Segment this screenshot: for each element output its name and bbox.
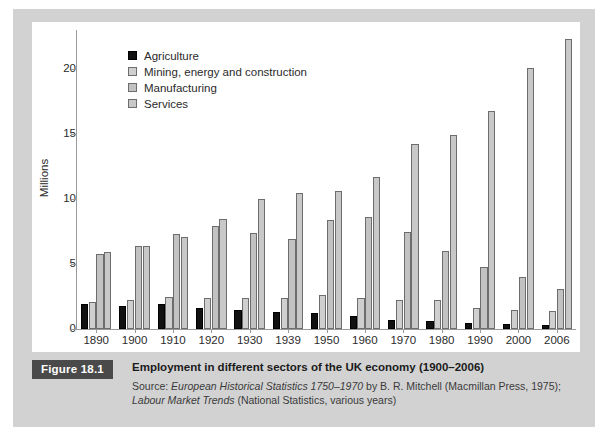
- legend-label-services: Services: [144, 98, 188, 110]
- bar-1990-services: [488, 111, 495, 329]
- bar-1890-agriculture: [81, 304, 88, 329]
- bar-1900-agriculture: [119, 306, 126, 329]
- bar-1900-mining: [127, 300, 134, 329]
- bar-1930-agriculture: [234, 310, 241, 330]
- bar-1960-services: [373, 177, 380, 329]
- x-axis-label-1900: 1900: [115, 334, 155, 346]
- y-tick-mark: [71, 69, 76, 70]
- bar-1960-manufacturing: [365, 217, 372, 329]
- figure-number-badge: Figure 18.1: [32, 360, 113, 379]
- bar-1960-agriculture: [350, 316, 357, 329]
- x-axis-label-1930: 1930: [230, 334, 270, 346]
- bar-1920-services: [219, 219, 226, 330]
- bar-1980-services: [450, 135, 457, 329]
- x-tick-1930: [250, 329, 251, 333]
- x-axis-label-1950: 1950: [307, 334, 347, 346]
- bar-1960-mining: [357, 298, 364, 329]
- caption-text-block: Employment in different sectors of the U…: [132, 360, 572, 407]
- legend-swatch-icon-mining: [128, 67, 137, 76]
- source-prefix: Source:: [132, 380, 171, 392]
- source-title-2: Labour Market Trends: [132, 394, 235, 406]
- bar-1930-services: [258, 199, 265, 329]
- x-tick-1900: [135, 329, 136, 333]
- y-tick-20: 20: [32, 63, 76, 74]
- x-axis-label-1960: 1960: [345, 334, 385, 346]
- chart-plot-area: 05101520 Millions 1890190019101920193019…: [32, 22, 580, 352]
- bar-1990-manufacturing: [480, 267, 487, 329]
- bar-1910-manufacturing: [173, 234, 180, 329]
- bar-1930-manufacturing: [250, 233, 257, 329]
- legend-swatch-icon-manufacturing: [128, 83, 137, 92]
- bar-1980-agriculture: [426, 321, 433, 329]
- bar-2000-agriculture: [503, 324, 510, 329]
- y-tick-0: 0: [32, 323, 76, 334]
- bar-1900-manufacturing: [135, 246, 142, 329]
- y-tick-5: 5: [32, 258, 76, 269]
- legend-item-mining: Mining, energy and construction: [128, 64, 398, 79]
- bar-1939-agriculture: [273, 312, 280, 329]
- chart-panel: 05101520 Millions 1890190019101920193019…: [32, 22, 580, 352]
- legend-item-agriculture: Agriculture: [128, 48, 398, 63]
- y-tick-mark: [71, 134, 76, 135]
- x-tick-1890: [96, 329, 97, 333]
- x-axis-label-1939: 1939: [268, 334, 308, 346]
- x-tick-2000: [518, 329, 519, 333]
- chart-legend: Agriculture Mining, energy and construct…: [128, 48, 398, 112]
- legend-item-manufacturing: Manufacturing: [128, 80, 398, 95]
- bar-1890-manufacturing: [96, 254, 103, 329]
- bar-1990-mining: [473, 308, 480, 329]
- bar-1920-manufacturing: [212, 226, 219, 329]
- bar-1950-services: [335, 191, 342, 329]
- x-axis-label-2006: 2006: [537, 334, 577, 346]
- x-axis-label-1980: 1980: [422, 334, 462, 346]
- bar-group-2006: [538, 22, 576, 330]
- x-axis-label-2000: 2000: [498, 334, 538, 346]
- bar-1930-mining: [242, 298, 249, 329]
- y-tick-mark: [71, 329, 76, 330]
- x-axis-label-1990: 1990: [460, 334, 500, 346]
- bar-1939-manufacturing: [288, 239, 295, 329]
- legend-swatch-icon-agriculture: [128, 51, 137, 60]
- legend-item-services: Services: [128, 96, 398, 111]
- legend-label-mining: Mining, energy and construction: [144, 66, 307, 78]
- bar-1980-mining: [434, 300, 441, 329]
- bar-1950-manufacturing: [327, 220, 334, 329]
- bar-1970-agriculture: [388, 320, 395, 329]
- bar-1970-manufacturing: [404, 232, 411, 330]
- x-tick-1920: [211, 329, 212, 333]
- caption-source: Source: European Historical Statistics 1…: [132, 379, 572, 407]
- x-tick-2006: [557, 329, 558, 333]
- source-suffix-2: (National Statistics, various years): [235, 394, 397, 406]
- bar-1950-agriculture: [311, 313, 318, 329]
- y-tick-mark: [71, 264, 76, 265]
- bar-1920-agriculture: [196, 308, 203, 329]
- bar-2006-mining: [549, 311, 556, 329]
- bar-2000-services: [527, 68, 534, 329]
- x-tick-1960: [365, 329, 366, 333]
- bar-1939-mining: [281, 298, 288, 329]
- caption-title: Employment in different sectors of the U…: [132, 360, 572, 375]
- x-tick-1980: [442, 329, 443, 333]
- x-axis-label-1910: 1910: [153, 334, 193, 346]
- y-tick-mark: [71, 199, 76, 200]
- caption-source-line-2: Labour Market Trends (National Statistic…: [132, 393, 572, 407]
- bar-1970-services: [411, 144, 418, 329]
- x-tick-1910: [173, 329, 174, 333]
- bar-1910-mining: [165, 297, 172, 330]
- bar-2006-manufacturing: [557, 289, 564, 329]
- bar-2006-services: [565, 39, 572, 329]
- x-axis-label-1920: 1920: [191, 334, 231, 346]
- caption-source-line-1: Source: European Historical Statistics 1…: [132, 379, 572, 393]
- legend-label-manufacturing: Manufacturing: [144, 82, 217, 94]
- x-axis-label-1970: 1970: [383, 334, 423, 346]
- y-axis-title: Millions: [38, 118, 50, 238]
- bar-1990-agriculture: [465, 323, 472, 330]
- x-tick-1970: [403, 329, 404, 333]
- source-suffix-1: by B. R. Mitchell (Macmillan Press, 1975…: [363, 380, 561, 392]
- x-tick-1939: [288, 329, 289, 333]
- bar-2006-agriculture: [542, 325, 549, 329]
- bar-2000-manufacturing: [519, 277, 526, 329]
- bar-1980-manufacturing: [442, 251, 449, 329]
- bar-1970-mining: [396, 300, 403, 329]
- bar-1910-agriculture: [158, 304, 165, 329]
